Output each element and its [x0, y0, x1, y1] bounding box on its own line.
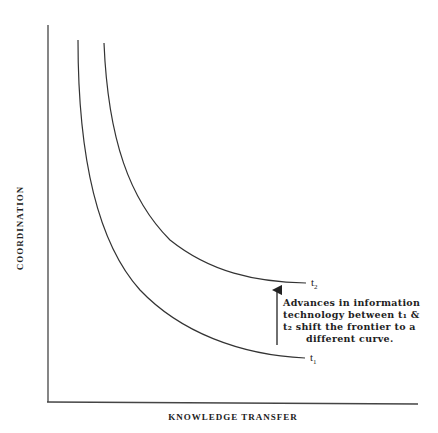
- curve-label-t1: t1: [310, 351, 317, 366]
- x-axis: [47, 402, 418, 404]
- annotation-line-1: Advances in information: [282, 297, 420, 308]
- x-axis-label: KNOWLEDGE TRANSFER: [168, 412, 298, 422]
- annotation-line-4: different curve.: [306, 333, 394, 344]
- curve-label-t2: t2: [311, 276, 318, 291]
- y-axis-label: COORDINATION: [15, 186, 25, 270]
- frontier-curve-t1: [78, 40, 305, 358]
- frontier-curve-t2: [104, 43, 306, 283]
- annotation-line-3: t₂ shift the frontier to a: [283, 321, 416, 332]
- frontier-diagram: t2 t1 Advances in information technology…: [0, 0, 438, 433]
- annotation-line-2: technology between t₁ &: [283, 309, 420, 320]
